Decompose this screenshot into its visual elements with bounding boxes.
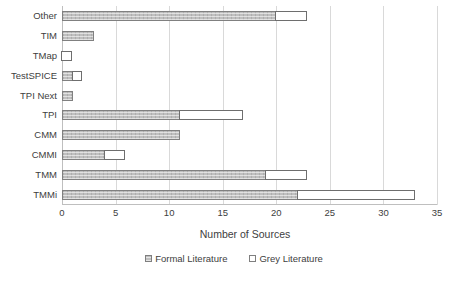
bar-segment-formal[interactable] [62, 31, 94, 41]
x-tick-label-30: 30 [378, 207, 389, 219]
legend-label: Formal Literature [155, 253, 227, 264]
bar-segment-formal[interactable] [62, 130, 180, 140]
legend-item[interactable]: Formal Literature [145, 253, 227, 264]
category-label-other: Other [33, 11, 57, 21]
chart-legend: Formal LiteratureGrey Literature [0, 253, 468, 264]
category-label-tmap: TMap [33, 51, 57, 61]
bar-row[interactable] [62, 130, 437, 140]
x-tick-label-5: 5 [113, 207, 118, 219]
bar-row[interactable] [62, 110, 437, 120]
category-axis-labels: OtherTIMTMapTestSPICETPI NextTPICMMCMMIT… [0, 6, 57, 205]
bar-row[interactable] [62, 91, 437, 101]
bar-segment-formal[interactable] [62, 91, 73, 101]
bar-segment-formal[interactable] [62, 190, 298, 200]
category-label-testspice: TestSPICE [11, 71, 57, 81]
legend-label: Grey Literature [259, 253, 322, 264]
category-label-tpi-next: TPI Next [20, 91, 57, 101]
bar-segment-formal[interactable] [62, 110, 180, 120]
x-tick-label-35: 35 [432, 207, 443, 219]
bar-row[interactable] [62, 51, 437, 61]
bar-series-container [62, 6, 437, 205]
bar-segment-formal[interactable] [62, 150, 105, 160]
bar-segment-formal[interactable] [62, 170, 266, 180]
formal-literature-swatch [145, 255, 152, 262]
x-tick-label-20: 20 [271, 207, 282, 219]
category-label-tim: TIM [41, 31, 57, 41]
bar-segment-formal[interactable] [62, 11, 276, 21]
bar-row[interactable] [62, 31, 437, 41]
bar-row[interactable] [62, 190, 437, 200]
bar-segment-grey[interactable] [297, 190, 415, 200]
x-axis-title-text: Number of Sources [200, 228, 290, 240]
legend-item[interactable]: Grey Literature [249, 253, 322, 264]
category-label-cmmi: CMMI [32, 150, 57, 160]
x-tick-label-15: 15 [217, 207, 228, 219]
bar-segment-grey[interactable] [72, 71, 83, 81]
bar-chart: OtherTIMTMapTestSPICETPI NextTPICMMCMMIT… [0, 0, 468, 291]
plot-area [62, 6, 437, 205]
category-label-cmm: CMM [34, 130, 57, 140]
category-label-tpi: TPI [42, 110, 57, 120]
x-axis-tick-labels: 05101520253035 [0, 207, 468, 221]
bar-segment-grey[interactable] [61, 51, 72, 61]
x-tick-label-25: 25 [325, 207, 336, 219]
category-label-tmmi: TMMi [33, 190, 57, 200]
bar-segment-grey[interactable] [265, 170, 308, 180]
x-axis-title: Number of Sources [0, 228, 468, 240]
bar-segment-grey[interactable] [275, 11, 307, 21]
category-label-tmm: TMM [35, 170, 57, 180]
bar-segment-grey[interactable] [104, 150, 125, 160]
x-tick-label-0: 0 [59, 207, 64, 219]
x-tick-label-10: 10 [164, 207, 175, 219]
bar-segment-grey[interactable] [179, 110, 243, 120]
bar-row[interactable] [62, 71, 437, 81]
x-axis-line [62, 204, 437, 205]
grey-literature-swatch [249, 255, 256, 262]
gridline-35 [437, 6, 438, 205]
bar-row[interactable] [62, 150, 437, 160]
bar-row[interactable] [62, 170, 437, 180]
bar-row[interactable] [62, 11, 437, 21]
